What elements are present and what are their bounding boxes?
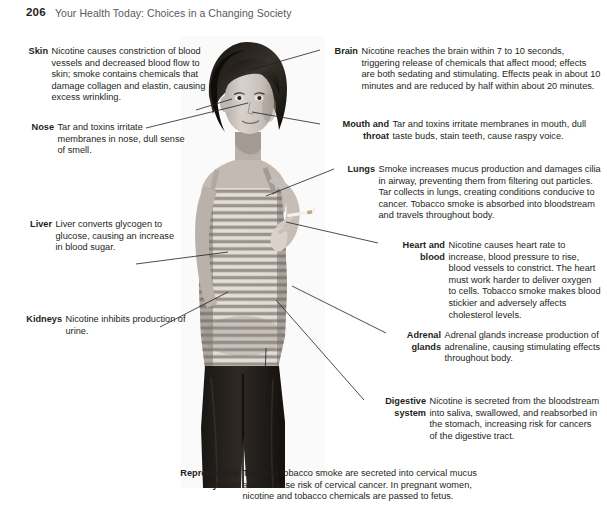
callout-adrenal-glands: Adrenal glands Adrenal glands increase p… (391, 330, 601, 365)
callout-term-nose: Nose (22, 122, 58, 157)
callout-term-skin: Skin (22, 46, 52, 104)
callout-term-liver: Liver (22, 219, 56, 254)
callout-text-nose: Tar and toxins irritate membranes in nos… (58, 122, 193, 157)
book-title: Your Health Today: Choices in a Changing… (55, 7, 291, 19)
callout-term-digestive-system: Digestive system (370, 396, 430, 442)
callout-mouth-throat: Mouth and throat Tar and toxins irritate… (325, 119, 601, 142)
callout-text-liver: Liver converts glycogen to glucose, caus… (56, 219, 183, 254)
callout-lungs: Lungs Smoke increases mucus production a… (340, 164, 601, 222)
callout-heart-blood: Heart and blood Nicotine causes heart ra… (383, 240, 601, 321)
callout-term-mouth-throat: Mouth and throat (325, 119, 393, 142)
callout-text-brain: Nicotine reaches the brain within 7 to 1… (362, 46, 602, 92)
callout-text-skin: Nicotine causes constriction of blood ve… (52, 46, 219, 104)
callout-term-adrenal-glands: Adrenal glands (391, 330, 445, 365)
callout-liver: Liver Liver converts glycogen to glucose… (22, 219, 182, 254)
page-number: 206 (26, 6, 46, 18)
callout-text-kidneys: Nicotine inhibits production of urine. (66, 314, 193, 337)
callout-term-kidneys: Kidneys (17, 314, 66, 337)
running-head: 206 Your Health Today: Choices in a Chan… (0, 4, 607, 24)
callout-reproductive-system: Reproductive system Toxins in tobacco sm… (160, 468, 490, 503)
callout-text-lungs: Smoke increases mucus production and dam… (379, 164, 602, 222)
callout-text-adrenal-glands: Adrenal glands increase production of ad… (445, 330, 602, 365)
callout-text-mouth-throat: Tar and toxins irritate membranes in mou… (393, 119, 602, 142)
callout-kidneys: Kidneys Nicotine inhibits production of … (17, 314, 192, 337)
callout-nose: Nose Tar and toxins irritate membranes i… (22, 122, 192, 157)
textbook-page: 206 Your Health Today: Choices in a Chan… (0, 0, 607, 524)
callout-term-lungs: Lungs (340, 164, 379, 222)
callout-digestive-system: Digestive system Nicotine is secreted fr… (370, 396, 601, 442)
callout-text-heart-blood: Nicotine causes heart rate to increase, … (449, 240, 602, 321)
callout-brain: Brain Nicotine reaches the brain within … (325, 46, 601, 92)
callout-skin: Skin Nicotine causes constriction of blo… (22, 46, 218, 104)
callout-term-brain: Brain (325, 46, 362, 92)
callout-term-heart-blood: Heart and blood (383, 240, 449, 321)
callout-term-reproductive-system: Reproductive system (160, 468, 243, 503)
callout-text-digestive-system: Nicotine is secreted from the bloodstrea… (430, 396, 602, 442)
callout-text-reproductive-system: Toxins in tobacco smoke are secreted int… (243, 468, 491, 503)
